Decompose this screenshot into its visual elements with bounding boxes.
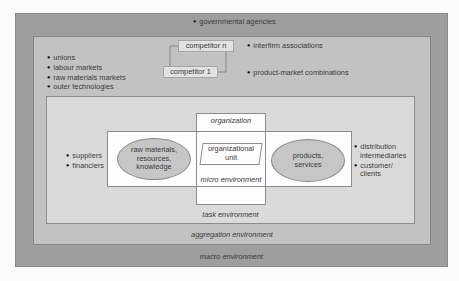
- ellipse-line: services: [293, 161, 323, 170]
- organizational-unit-label: organizational unit: [200, 145, 262, 162]
- list-item-financiers: financiers: [66, 161, 104, 171]
- unit-line: unit: [200, 154, 262, 163]
- interfirm-associations-label: interfirm associations: [247, 42, 323, 49]
- aggregation-environment-label: aggregation environment: [33, 231, 431, 238]
- micro-environment-label: micro environment: [196, 176, 266, 183]
- task-right-list: distribution intermediaries customer/ cl…: [354, 142, 406, 179]
- list-item-intermediaries: intermediaries: [354, 152, 406, 161]
- list-item-suppliers: suppliers: [66, 151, 104, 161]
- organization-label: organization: [196, 117, 266, 124]
- task-left-list: suppliers financiers: [66, 151, 104, 171]
- task-environment-label: task environment: [46, 211, 415, 218]
- output-products-ellipse: products, services: [271, 139, 345, 182]
- product-market-combinations-label: product-market combinations: [247, 69, 349, 76]
- list-item-clients: clients: [354, 170, 406, 179]
- input-resources-ellipse: raw materials, resources, knowledge: [117, 138, 191, 180]
- competitor-1-box: competitor 1: [163, 66, 218, 78]
- competitor-n-box: competitor n: [178, 40, 234, 52]
- ellipse-line: knowledge: [131, 163, 177, 172]
